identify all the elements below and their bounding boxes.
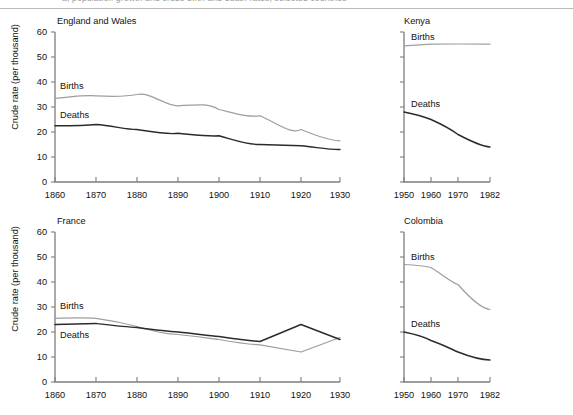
x-tick-label: 1910 [250, 190, 270, 200]
axis-lines-england [55, 32, 340, 182]
x-tick-label: 1870 [86, 390, 106, 400]
y-tick-label: 40 [37, 77, 47, 87]
x-tick-label: 1860 [45, 390, 65, 400]
x-tick-label: 1900 [209, 190, 229, 200]
y-tick-label: 50 [37, 52, 47, 62]
series-label-deaths-france: Deaths [60, 330, 90, 340]
y-tick-label: 60 [37, 227, 47, 237]
y-tick-label: 0 [42, 377, 47, 387]
panel-england-and-wales: England and Wales Crude rate (per thousa… [0, 10, 350, 210]
x-tick-labels-kenya: 1950 1960 1970 1982 [394, 190, 500, 200]
series-label-deaths-england: Deaths [60, 110, 90, 120]
x-tick-labels-colombia: 1950 1960 1970 1982 [394, 390, 500, 400]
chart-svg-kenya: 1950 1960 1970 1982 Births Deaths [390, 10, 573, 210]
panel-france: France Crude rate (per thousand) 0 10 20… [0, 210, 350, 415]
axis-lines-france [55, 232, 340, 382]
y-tick-labels-france: 0 10 20 30 40 50 60 [37, 227, 47, 387]
x-tick-label: 1950 [394, 390, 414, 400]
x-tick-label: 1930 [330, 390, 350, 400]
x-ticks-england [55, 177, 340, 182]
chart-grid: England and Wales Crude rate (per thousa… [0, 10, 573, 415]
x-tick-labels-france: 1860 1870 1880 1890 1900 1910 1920 1930 [45, 390, 350, 400]
series-label-births-england: Births [60, 81, 84, 91]
x-tick-label: 1960 [421, 390, 441, 400]
y-tick-label: 20 [37, 327, 47, 337]
x-tick-label: 1950 [394, 190, 414, 200]
x-tick-label: 1960 [421, 190, 441, 200]
line-births-colombia [404, 265, 490, 310]
y-tick-label: 0 [42, 177, 47, 187]
x-tick-label: 1920 [291, 390, 311, 400]
x-tick-label: 1870 [86, 190, 106, 200]
panel-colombia: Colombia 1950 1960 1970 1982 Births [390, 210, 573, 415]
x-tick-label: 1970 [448, 390, 468, 400]
series-label-deaths-colombia: Deaths [411, 319, 441, 329]
header-divider-rule [0, 8, 573, 9]
clipped-header-text: a, population growth and crude birth and… [62, 0, 347, 3]
x-tick-label: 1860 [45, 190, 65, 200]
chart-svg-colombia: 1950 1960 1970 1982 Births Deaths [390, 210, 573, 415]
x-tick-label: 1880 [127, 390, 147, 400]
x-tick-label: 1982 [480, 190, 500, 200]
y-tick-label: 10 [37, 352, 47, 362]
line-deaths-france [55, 324, 340, 342]
x-tick-label: 1982 [480, 390, 500, 400]
x-tick-label: 1890 [168, 390, 188, 400]
line-births-england [55, 94, 340, 141]
line-births-kenya [404, 44, 490, 46]
chart-svg-france: 0 10 20 30 40 50 60 1860 1870 1880 1890 … [0, 210, 350, 415]
x-tick-label: 1880 [127, 190, 147, 200]
y-tick-label: 60 [37, 27, 47, 37]
y-tick-label: 20 [37, 127, 47, 137]
series-label-births-colombia: Births [411, 252, 435, 262]
series-label-births-france: Births [60, 301, 84, 311]
x-tick-label: 1890 [168, 190, 188, 200]
x-ticks-colombia [404, 377, 490, 382]
x-tick-labels-england: 1860 1870 1880 1890 1900 1910 1920 1930 [45, 190, 350, 200]
y-tick-label: 50 [37, 252, 47, 262]
y-tick-label: 30 [37, 302, 47, 312]
x-tick-label: 1910 [250, 390, 270, 400]
series-label-deaths-kenya: Deaths [411, 99, 441, 109]
y-tick-labels-england: 0 10 20 30 40 50 60 [37, 27, 47, 187]
x-ticks-france [55, 377, 340, 382]
line-deaths-kenya [404, 112, 490, 147]
x-tick-label: 1970 [448, 190, 468, 200]
chart-svg-england: 0 10 20 30 40 50 60 1860 1870 1880 1890 … [0, 10, 350, 210]
series-label-births-kenya: Births [411, 32, 435, 42]
x-tick-label: 1930 [330, 190, 350, 200]
x-tick-label: 1920 [291, 190, 311, 200]
y-tick-label: 30 [37, 102, 47, 112]
y-tick-label: 40 [37, 277, 47, 287]
y-tick-label: 10 [37, 152, 47, 162]
x-tick-label: 1900 [209, 390, 229, 400]
line-deaths-england [55, 125, 340, 150]
panel-kenya: Kenya 1950 1960 1970 1982 Births D [390, 10, 573, 210]
line-deaths-colombia [404, 332, 490, 360]
x-ticks-kenya [404, 177, 490, 182]
